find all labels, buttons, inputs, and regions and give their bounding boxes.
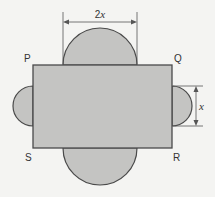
composite-shape-figure: 2x x P Q S R [0, 0, 215, 197]
vertex-label-r: R [173, 152, 180, 163]
diagram: 2x x P Q S R [0, 0, 215, 197]
vertex-label-s: S [25, 152, 32, 163]
top-semicircle [63, 28, 137, 65]
bottom-semicircle [63, 148, 137, 185]
right-semicircle [172, 86, 192, 126]
top-dimension-label: 2x [95, 8, 106, 20]
left-semicircle [13, 86, 33, 126]
vertex-label-q: Q [174, 53, 182, 64]
vertex-label-p: P [24, 53, 31, 64]
right-dimension-label: x [198, 100, 204, 112]
rectangle-pqrs [33, 65, 172, 148]
